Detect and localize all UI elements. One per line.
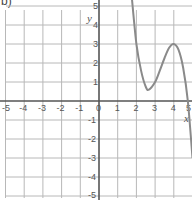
- y-tick-label: 2: [93, 58, 98, 68]
- x-tick-label: -3: [38, 103, 46, 113]
- x-tick-label: 1: [115, 103, 120, 113]
- y-tick-label: -3: [88, 153, 96, 163]
- y-tick-label: -5: [88, 190, 96, 200]
- y-tick-label: -1: [88, 115, 96, 125]
- y-tick-label: 1: [93, 77, 98, 87]
- x-tick-label: -5: [2, 103, 10, 113]
- y-axis-label: y: [86, 12, 92, 24]
- x-tick-label: -2: [57, 103, 65, 113]
- x-tick-label: 4: [171, 103, 176, 113]
- chart-plot: -5-4-3-2-1012345 54321-1-2-3-4-5 x y: [0, 0, 192, 200]
- y-tick-label: 5: [93, 1, 98, 11]
- y-tick-label: 4: [93, 20, 98, 30]
- y-tick-label: -2: [88, 134, 96, 144]
- x-tick-label: -1: [75, 103, 83, 113]
- x-tick-labels: -5-4-3-2-1012345: [2, 103, 191, 113]
- series-line-cubic: [132, 0, 192, 158]
- x-tick-label: 3: [152, 103, 157, 113]
- y-tick-label: -4: [88, 172, 96, 182]
- x-tick-label: -4: [19, 103, 27, 113]
- x-tick-label: 0: [96, 103, 101, 113]
- x-tick-label: 2: [133, 103, 138, 113]
- y-tick-label: 3: [93, 39, 98, 49]
